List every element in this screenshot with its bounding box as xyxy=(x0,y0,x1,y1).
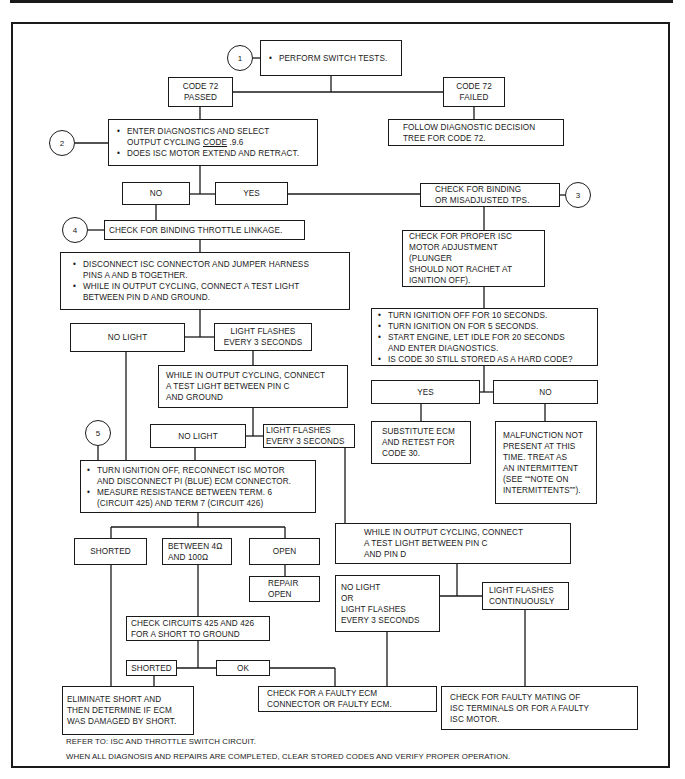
measure-resistance-box: TURN IGNITION OFF, RECONNECT ISC MOTORAN… xyxy=(80,460,316,513)
pin-c-pin-d-box: WHILE IN OUTPUT CYCLING, CONNECT A TEST … xyxy=(335,523,571,564)
node-text: ISC TERMINALS OR FOR A FAULTY xyxy=(450,703,631,714)
repair-open-box: REPAIR OPEN xyxy=(249,576,320,602)
node-text: MALFUNCTION NOT xyxy=(503,430,590,441)
node-text: SHORTED xyxy=(90,546,131,557)
node-text: (CIRCUIT 425) AND TERM 7 (CIRCUIT 426) xyxy=(97,499,263,508)
step-circle-5: 5 xyxy=(85,420,111,446)
node-text: PASSED xyxy=(184,92,217,103)
between-4-100-ohm-box: BETWEEN 4Ω AND 100Ω xyxy=(162,538,232,565)
node-text: AND GROUND xyxy=(166,392,341,403)
step-number: 4 xyxy=(73,226,77,235)
node-text: OR MISADJUSTED TPS. xyxy=(435,195,553,206)
node-text: AND ENTER DIAGNOSTICS. xyxy=(388,344,498,353)
node-text: .9.6 xyxy=(227,138,243,147)
no-light-box-2: NO LIGHT xyxy=(150,424,246,448)
node-text: PRESENT AT THIS xyxy=(503,441,590,452)
code72-passed-box: CODE 72 PASSED xyxy=(168,77,233,107)
node-text: SUBSTITUTE ECM xyxy=(382,426,464,437)
node-text: (SEE ““NOTE ON xyxy=(503,474,590,485)
node-text: CODE 72 xyxy=(183,81,219,92)
node-text: SHOULD NOT RACHET AT xyxy=(409,264,538,275)
malfunction-not-present-box: MALFUNCTION NOT PRESENT AT THIS TIME. TR… xyxy=(495,421,597,504)
shorted-box-2: SHORTED xyxy=(126,660,177,676)
node-text: OPEN xyxy=(268,589,313,600)
node-text: FOLLOW DIAGNOSTIC DECISION xyxy=(403,122,557,133)
node-text: BETWEEN PIN D AND GROUND. xyxy=(83,293,210,302)
step-number: 3 xyxy=(576,191,580,200)
node-text: WHILE IN OUTPUT CYCLING, CONNECT A TEST … xyxy=(83,282,299,291)
node-text: TREE FOR CODE 72. xyxy=(403,133,557,144)
node-text: LIGHT FLASHES xyxy=(231,326,296,337)
light-flashes-continuously-box: LIGHT FLASHES CONTINUOUSLY xyxy=(482,582,569,610)
node-text: NO xyxy=(150,188,162,199)
node-text: ELIMINATE SHORT AND xyxy=(67,694,187,705)
node-text: PERFORM SWITCH TESTS. xyxy=(267,53,395,64)
node-text: NO LIGHT xyxy=(178,431,217,442)
step-circle-4: 4 xyxy=(62,217,88,243)
node-text: BETWEEN 4Ω xyxy=(168,541,225,552)
enter-diagnostics-box: ENTER DIAGNOSTICS AND SELECT OUTPUT CYCL… xyxy=(108,119,318,166)
node-text: REPAIR xyxy=(268,578,313,589)
node-text: PINS A AND B TOGETHER. xyxy=(83,271,188,280)
check-faulty-ecm-box: CHECK FOR A FAULTY ECM CONNECTOR OR FAUL… xyxy=(258,686,437,712)
perform-switch-tests-box: PERFORM SWITCH TESTS. xyxy=(260,40,402,76)
disconnect-isc-box: DISCONNECT ISC CONNECTOR AND JUMPER HARN… xyxy=(60,252,350,310)
node-text: ISC MOTOR. xyxy=(450,714,631,725)
node-text: WHILE IN OUTPUT CYCLING, CONNECT xyxy=(364,527,564,538)
shorted-box-1: SHORTED xyxy=(74,538,147,565)
node-text: CHECK FOR FAULTY MATING OF xyxy=(450,692,631,703)
node-text: WAS DAMAGED BY SHORT. xyxy=(67,716,187,727)
node-text: NO xyxy=(539,387,551,398)
node-text: CHECK FOR A FAULTY ECM xyxy=(267,688,430,699)
eliminate-short-box: ELIMINATE SHORT AND THEN DETERMINE IF EC… xyxy=(62,686,194,735)
node-text: IGNITION OFF). xyxy=(409,275,538,286)
node-text: NO LIGHT xyxy=(108,332,147,343)
node-text: CHECK FOR BINDING THROTTLE LINKAGE. xyxy=(109,225,298,236)
node-text: CONNECTOR OR FAULTY ECM. xyxy=(267,699,430,710)
node-text: TURN IGNITION OFF FOR 10 SECONDS. xyxy=(376,310,593,321)
node-text: MOTOR ADJUSTMENT (PLUNGER xyxy=(409,242,538,264)
substitute-ecm-box: SUBSTITUTE ECM AND RETEST FOR CODE 30. xyxy=(371,421,471,464)
node-text: INTERMITTENTS””). xyxy=(503,485,590,496)
check-isc-adjustment-box: CHECK FOR PROPER ISC MOTOR ADJUSTMENT (P… xyxy=(402,230,545,287)
node-text: LIGHT FLASHES xyxy=(266,425,352,436)
step-circle-1: 1 xyxy=(227,45,253,71)
node-text: YES xyxy=(243,188,260,199)
node-text: AND PIN D xyxy=(364,549,564,560)
node-text: AND 100Ω xyxy=(168,552,225,563)
node-text: FOR A SHORT TO GROUND xyxy=(131,629,263,640)
no-box-1: NO xyxy=(122,182,190,205)
node-text: EVERY 3 SECONDS xyxy=(266,436,352,447)
node-text: AN INTERMITTENT xyxy=(503,463,590,474)
no-light-or-flashes-box: NO LIGHT OR LIGHT FLASHES EVERY 3 SECOND… xyxy=(335,575,440,632)
node-text: OUTPUT CYCLING xyxy=(127,138,203,147)
node-text: YES xyxy=(417,387,434,398)
node-text: OPEN xyxy=(273,546,297,557)
node-text: ENTER DIAGNOSTICS AND SELECT xyxy=(127,127,269,136)
node-text: TIME. TREAT AS xyxy=(503,452,590,463)
node-text: DISCONNECT ISC CONNECTOR AND JUMPER HARN… xyxy=(83,260,309,269)
node-text: CHECK FOR BINDING xyxy=(435,184,553,195)
node-text: CHECK FOR PROPER ISC xyxy=(409,231,538,242)
node-text: WHILE IN OUTPUT CYCLING, CONNECT xyxy=(166,370,341,381)
node-text: AND RETEST FOR xyxy=(382,437,464,448)
node-text: DOES ISC MOTOR EXTEND AND RETRACT. xyxy=(115,148,311,159)
node-text: START ENGINE, LET IDLE FOR 20 SECONDS xyxy=(388,333,565,342)
node-text: NO LIGHT xyxy=(341,582,433,593)
node-text: OR xyxy=(341,593,433,604)
follow-decision-tree-box: FOLLOW DIAGNOSTIC DECISION TREE FOR CODE… xyxy=(388,119,564,146)
node-text: CODE 30. xyxy=(382,448,464,459)
node-text: A TEST LIGHT BETWEEN PIN C xyxy=(364,538,564,549)
light-flashes-box-1: LIGHT FLASHES EVERY 3 SECONDS xyxy=(214,323,312,351)
node-text: CHECK CIRCUITS 425 AND 426 xyxy=(131,618,263,629)
check-faulty-mating-box: CHECK FOR FAULTY MATING OF ISC TERMINALS… xyxy=(441,686,638,730)
node-text: CODE 72 xyxy=(456,81,492,92)
pin-c-ground-box: WHILE IN OUTPUT CYCLING, CONNECT A TEST … xyxy=(158,365,348,408)
completion-note: WHEN ALL DIAGNOSIS AND REPAIRS ARE COMPL… xyxy=(66,752,510,761)
node-text: A TEST LIGHT BETWEEN PIN C xyxy=(166,381,341,392)
node-text: SHORTED xyxy=(131,663,172,674)
node-text: MEASURE RESISTANCE BETWEEN TERM. 6 xyxy=(97,488,272,497)
step-number: 2 xyxy=(60,139,64,148)
open-box: OPEN xyxy=(249,538,320,565)
node-text: OK xyxy=(237,663,249,674)
